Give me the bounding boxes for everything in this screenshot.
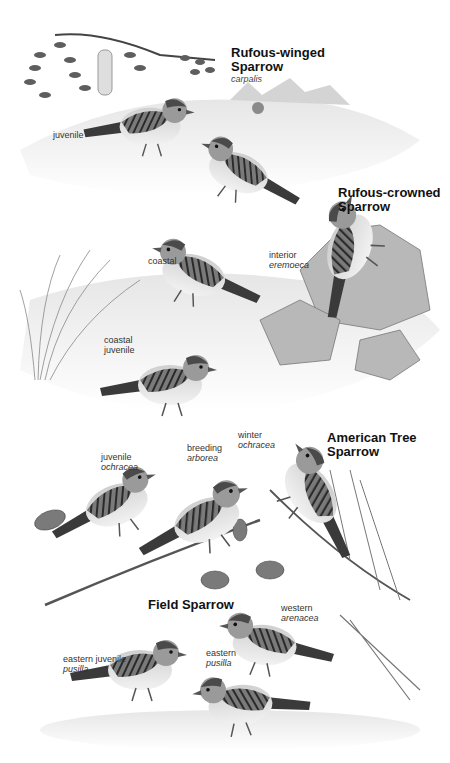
label-subspecies: ochracea xyxy=(238,440,275,450)
label-western-arenacea: western arenacea xyxy=(281,603,319,623)
label-eastern-pusilla: eastern pusilla xyxy=(206,648,236,668)
label-line: eastern juvenile xyxy=(63,654,126,664)
species-name-line1: Rufous-crowned xyxy=(338,185,441,200)
label-winter-ochracea: winter ochracea xyxy=(238,430,275,450)
label-line: breeding xyxy=(187,443,222,453)
species-name-line1: American Tree xyxy=(327,430,417,445)
label-line: winter xyxy=(238,430,262,440)
species-title-american-tree: American Tree Sparrow xyxy=(327,431,417,459)
label-subspecies: pusilla xyxy=(63,664,89,674)
field-scene xyxy=(40,615,420,750)
species-name-line2: Sparrow xyxy=(231,59,283,74)
label-subspecies: arborea xyxy=(187,453,218,463)
species-name-line1: Rufous-winged xyxy=(231,45,325,60)
rocky-scene xyxy=(20,225,440,412)
species-title-field: Field Sparrow xyxy=(148,598,234,612)
label-breeding-arborea: breeding arborea xyxy=(187,443,222,463)
label-line: eastern xyxy=(206,648,236,658)
species-name-line2: Sparrow xyxy=(327,444,379,459)
label-eastern-juvenile-pusilla: eastern juvenile pusilla xyxy=(63,654,126,674)
label-subspecies: ochracea xyxy=(101,462,138,472)
species-title-rufous-winged: Rufous-winged Sparrow carpalis xyxy=(231,46,325,85)
species-name-line2: Sparrow xyxy=(338,199,390,214)
label-coastal: coastal xyxy=(148,256,177,266)
label-line: juvenile xyxy=(101,452,132,462)
label-juvenile: juvenile xyxy=(53,130,84,140)
label-subspecies: eremoeca xyxy=(269,260,309,270)
species-name-line1: Field Sparrow xyxy=(148,597,234,612)
label-juvenile-ochracea: juvenile ochracea xyxy=(101,452,138,472)
label-line: western xyxy=(281,603,313,613)
label-line: coastal xyxy=(104,335,133,345)
label-interior: interior eremoeca xyxy=(269,250,309,270)
species-title-rufous-crowned: Rufous-crowned Sparrow xyxy=(338,186,441,214)
label-coastal-juvenile: coastal juvenile xyxy=(104,335,135,355)
label-line: juvenile xyxy=(104,345,135,355)
label-subspecies: arenacea xyxy=(281,613,319,623)
subspecies-name: carpalis xyxy=(231,74,325,85)
label-subspecies: pusilla xyxy=(206,658,232,668)
label-line: interior xyxy=(269,250,297,260)
